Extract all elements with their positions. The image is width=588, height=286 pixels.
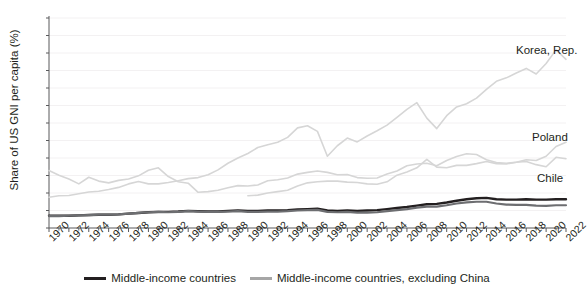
- legend-label: Middle-income countries, excluding China: [277, 272, 490, 284]
- series-line-4: [49, 154, 566, 193]
- chart-legend: Middle-income countriesMiddle-income cou…: [0, 272, 574, 284]
- legend-swatch: [84, 277, 106, 280]
- y-axis-tick-labels: 051015202530354045505560: [0, 0, 48, 286]
- series-label-korea-rep: Korea, Rep.: [516, 44, 577, 56]
- legend-label: Middle-income countries: [111, 272, 236, 284]
- series-label-chile: Chile: [537, 172, 563, 184]
- legend-item[interactable]: Middle-income countries: [84, 272, 236, 284]
- legend-item[interactable]: Middle-income countries, excluding China: [250, 272, 490, 284]
- series-label-poland: Poland: [532, 131, 568, 143]
- legend-swatch: [250, 277, 272, 280]
- series-line-3: [248, 142, 566, 196]
